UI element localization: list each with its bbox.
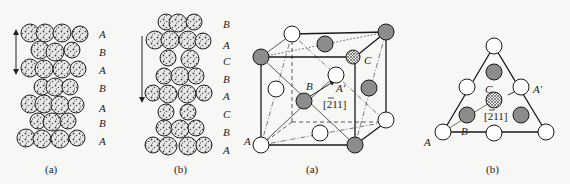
layer-labels-hcp: A B A B A B A [98,28,106,147]
atom-gray-b [296,93,312,109]
layer-label: A [222,144,230,156]
point-label-a: A [423,136,431,148]
atom-gray [347,137,363,153]
crystal-stacking-diagram: A B A B A B A (a) B A C B A C [0,0,570,184]
figure-fcc-stacking: B A C B A C B A (b) [142,14,231,176]
layer-label: C [223,55,231,67]
layer-label: A [98,28,106,40]
atom-white-a [253,137,269,153]
layer-label: B [223,18,230,30]
figure-fcc-unit-cell: A B C A′ [211] (a) [243,24,394,176]
svg-text:[211]: [211] [484,110,507,122]
atom-gray-b [459,107,475,123]
point-label-b: B [306,80,313,92]
atom-white-a-prime [328,67,344,83]
atom-hatched-c [346,50,360,64]
atom-gray [361,80,377,96]
direction-label: [211] [323,98,346,110]
atom-gray [253,49,269,65]
atom-white [486,38,502,54]
layer-label: B [223,73,230,85]
figure-hcp-stacking: A B A B A B A (a) [16,24,106,176]
layer-label: A [98,135,106,147]
atom-white [268,81,284,97]
atom-white [486,125,502,141]
atom-white [538,124,554,140]
atom-white [459,79,475,95]
point-label-a: A [243,135,251,147]
direction-label: [211] [484,110,507,122]
caption-a-cell: (a) [306,163,319,176]
layer-label: A [98,102,106,114]
point-label-b: B [461,125,468,137]
caption-a-left: (a) [45,163,58,176]
point-label-a-prime: A′ [335,82,346,94]
atom-white-a [435,124,451,140]
atom-white [312,125,328,141]
figure-111-plane: A B C A′ [211] (b) [423,38,554,176]
sphere-stack [145,14,212,155]
layer-labels-fcc: B A C B A C B A [222,18,231,156]
layer-label: B [99,117,106,129]
layer-label: A [222,39,230,51]
atom-white [378,112,394,128]
atom-gray [513,107,529,123]
atom-gray [378,24,394,40]
caption-b-left: (b) [174,163,187,176]
layer-label: A [98,64,106,76]
point-label-c: C [364,54,372,66]
atom-gray [317,36,333,52]
layer-label: B [99,82,106,94]
caption-b-plane: (b) [486,163,499,176]
layer-label: B [223,126,230,138]
layer-label: C [223,108,231,120]
atom-gray [486,64,502,80]
atom-white-a-prime [513,79,529,95]
atom-white [284,26,300,42]
layer-label: A [222,90,230,102]
layer-label: B [99,46,106,58]
point-label-a-prime: A′ [532,83,543,95]
point-label-c: C [485,83,493,95]
svg-text:[211]: [211] [323,98,346,110]
sphere-stack [17,24,88,148]
